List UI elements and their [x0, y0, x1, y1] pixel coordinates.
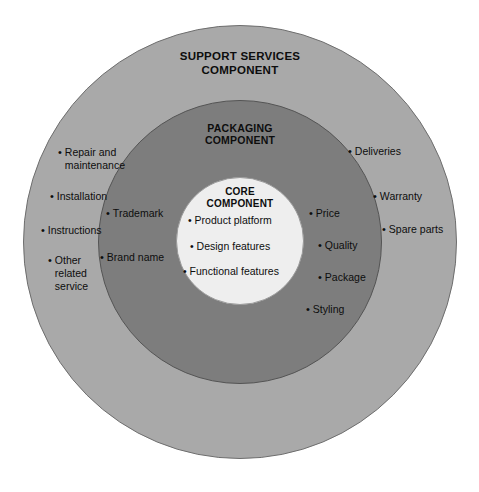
inner-circle-title: CORE COMPONENT [190, 186, 290, 210]
bullet-icon: • [50, 190, 54, 202]
middle-item-trademark: • Trademark [106, 194, 201, 233]
middle-item-label: Brand name [107, 251, 164, 264]
middle-item-label: Price [316, 207, 340, 220]
core-item-label: Design features [197, 240, 271, 252]
bullet-icon: • [58, 146, 62, 158]
outer-item-label: Other related service [55, 254, 88, 293]
bullet-icon: • [183, 265, 187, 277]
bullet-icon: • [306, 303, 310, 315]
bullet-icon: • [190, 240, 194, 252]
middle-item-label: Trademark [113, 207, 163, 220]
outer-item-deliveries: • Deliveries [348, 132, 458, 171]
outer-item-label: Repair and maintenance [65, 146, 125, 172]
core-item-design-features: • Design features [190, 240, 270, 252]
bullet-icon: • [41, 224, 45, 236]
bullet-icon: • [318, 271, 322, 283]
core-item-functional-features: • Functional features [183, 265, 279, 277]
bullet-icon: • [318, 239, 322, 251]
product-components-diagram: SUPPORT SERVICES COMPONENT PACKAGING COM… [0, 0, 479, 492]
bullet-icon: • [48, 254, 52, 266]
bullet-icon: • [100, 251, 104, 263]
outer-item-label: Instructions [48, 224, 102, 237]
middle-item-styling: • Styling [306, 290, 386, 329]
bullet-icon: • [348, 145, 352, 157]
bullet-icon: • [106, 207, 110, 219]
bullet-icon: • [309, 207, 313, 219]
core-item-label: Product platform [195, 214, 272, 226]
bullet-icon: • [188, 214, 192, 226]
middle-item-label: Styling [313, 303, 345, 316]
middle-item-label: Quality [325, 239, 358, 252]
outer-item-label: Deliveries [355, 145, 401, 158]
core-item-product-platform: • Product platform [188, 214, 272, 226]
middle-ring-title: PACKAGING COMPONENT [170, 122, 310, 147]
middle-item-label: Package [325, 271, 366, 284]
core-item-label: Functional features [190, 265, 279, 277]
outer-ring-title: SUPPORT SERVICES COMPONENT [145, 50, 335, 77]
outer-item-label: Installation [57, 190, 107, 203]
